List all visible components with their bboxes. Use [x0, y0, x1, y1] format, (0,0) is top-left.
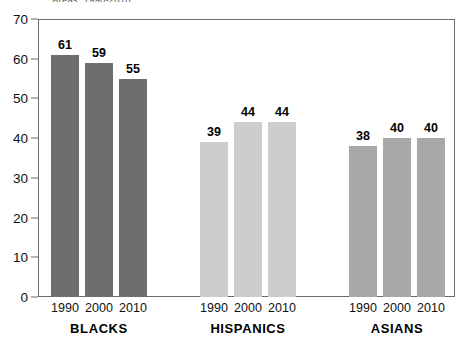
bar-hispanics-2000[interactable]: 44 — [234, 122, 262, 297]
bar-value-label: 59 — [92, 46, 106, 60]
x-tick-label-hispanics-2000: 2000 — [234, 301, 262, 315]
y-tick-label-10: 10 — [13, 250, 28, 265]
y-tick-label-50: 50 — [13, 91, 28, 106]
bar-hispanics-1990[interactable]: 39 — [200, 142, 228, 297]
x-tick-label-blacks-1990: 1990 — [51, 301, 79, 315]
x-tick-label-hispanics-1990: 1990 — [200, 301, 228, 315]
bar-asians-1990[interactable]: 38 — [349, 146, 377, 297]
bar-value-label: 38 — [356, 129, 370, 143]
bar-asians-2010[interactable]: 40 — [417, 138, 445, 297]
y-axis: 706050403020100 — [0, 0, 38, 343]
bar-value-label: 40 — [390, 121, 404, 135]
y-tick-mark-20 — [31, 217, 38, 218]
y-tick-label-70: 70 — [13, 12, 28, 27]
y-tick-label-0: 0 — [20, 290, 28, 305]
bar-blacks-1990[interactable]: 61 — [51, 55, 79, 297]
y-tick-mark-10 — [31, 257, 38, 258]
y-tick-mark-0 — [31, 297, 38, 298]
bar-value-label: 39 — [207, 125, 221, 139]
x-group-label-asians: ASIANS — [371, 321, 424, 336]
bar-hispanics-2010[interactable]: 44 — [268, 122, 296, 297]
bar-value-label: 61 — [58, 38, 72, 52]
x-tick-label-asians-2010: 2010 — [417, 301, 445, 315]
bar-value-label: 44 — [275, 105, 289, 119]
y-tick-mark-70 — [31, 19, 38, 20]
y-tick-mark-40 — [31, 138, 38, 139]
y-tick-mark-60 — [31, 58, 38, 59]
x-axis: 199020002010BLACKS199020002010HISPANICS1… — [38, 299, 455, 343]
x-tick-label-blacks-2000: 2000 — [85, 301, 113, 315]
bar-value-label: 40 — [424, 121, 438, 135]
x-tick-label-blacks-2010: 2010 — [119, 301, 147, 315]
x-group-label-hispanics: HISPANICS — [210, 321, 285, 336]
bar-value-label: 55 — [126, 62, 140, 76]
x-tick-label-hispanics-2010: 2010 — [268, 301, 296, 315]
chart-title: Areas, 1990-2010 — [52, 0, 131, 2]
y-tick-label-40: 40 — [13, 131, 28, 146]
bar-blacks-2000[interactable]: 59 — [85, 63, 113, 297]
x-group-label-blacks: BLACKS — [70, 321, 128, 336]
bars-layer: 615955394444384040 — [38, 19, 455, 297]
bar-asians-2000[interactable]: 40 — [383, 138, 411, 297]
y-tick-label-30: 30 — [13, 170, 28, 185]
x-tick-label-asians-1990: 1990 — [349, 301, 377, 315]
y-tick-label-60: 60 — [13, 51, 28, 66]
y-tick-mark-30 — [31, 177, 38, 178]
y-tick-label-20: 20 — [13, 210, 28, 225]
bar-value-label: 44 — [241, 105, 255, 119]
bar-blacks-2010[interactable]: 55 — [119, 79, 147, 297]
x-tick-label-asians-2000: 2000 — [383, 301, 411, 315]
y-tick-mark-50 — [31, 98, 38, 99]
